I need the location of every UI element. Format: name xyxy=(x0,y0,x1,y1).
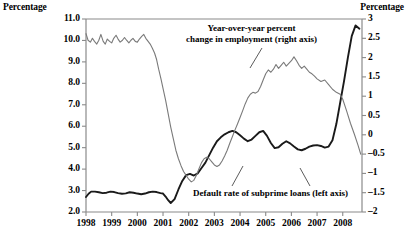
left-axis-tick-label: 7.0 xyxy=(18,100,80,110)
series-line xyxy=(86,25,359,203)
right-axis-tick-label: –0.5 xyxy=(368,149,385,159)
right-axis-tick-label: 2 xyxy=(368,53,373,63)
right-axis-tick-label: 0 xyxy=(368,130,373,140)
left-axis-tick-label: 5.0 xyxy=(18,143,80,153)
left-axis-tick-label: 10.0 xyxy=(18,35,80,45)
right-axis-tick-label: 1 xyxy=(368,91,373,101)
left-axis-tick-label: 11.0 xyxy=(18,14,80,24)
series-line xyxy=(86,34,361,182)
axis-lines xyxy=(86,19,362,212)
right-axis-tick-label: –1 xyxy=(368,168,378,178)
right-axis-tick-label: 1.5 xyxy=(368,72,380,82)
x-axis-tick-label: 2008 xyxy=(323,219,363,229)
right-axis-tick-label: –2 xyxy=(368,207,378,217)
left-axis-tick-label: 8.0 xyxy=(18,78,80,88)
x-axis-ticks xyxy=(86,212,343,216)
right-axis-tick-label: –1.5 xyxy=(368,188,385,198)
right-axis-tick-label: 2.5 xyxy=(368,33,380,43)
right-axis-tick-label: 3 xyxy=(368,14,373,24)
left-axis-tick-label: 2.0 xyxy=(18,207,80,217)
left-axis-tick-label: 6.0 xyxy=(18,121,80,131)
left-axis-tick-label: 4.0 xyxy=(18,164,80,174)
series-lines xyxy=(86,25,361,203)
chart-figure: Percentage Percentage Year-over-year per… xyxy=(0,0,407,240)
left-axis-tick-label: 9.0 xyxy=(18,57,80,67)
left-axis-tick-label: 3.0 xyxy=(18,186,80,196)
right-axis-tick-label: 0.5 xyxy=(368,111,380,121)
annotation-leader-lines xyxy=(232,48,310,186)
